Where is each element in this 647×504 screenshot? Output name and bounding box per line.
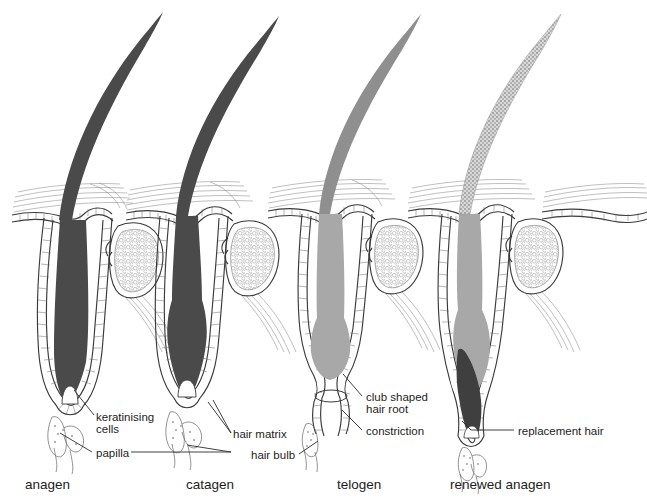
label-keratinising-cells-line1: keratinising xyxy=(96,411,154,423)
label-replacement-hair: replacement hair xyxy=(518,425,604,437)
stage-label-anagen: anagen xyxy=(25,477,70,492)
label-club-shaped-hair-root-line1: club shaped xyxy=(366,391,428,403)
label-hair-bulb: hair bulb xyxy=(251,449,295,461)
hair-cycle-diagram: keratinising cells papilla hair matrix h… xyxy=(0,0,647,504)
stage-label-telogen: telogen xyxy=(337,477,381,492)
label-club-shaped-hair-root-line2: hair root xyxy=(366,403,409,415)
diagram-canvas: keratinising cells papilla hair matrix h… xyxy=(0,0,647,504)
label-papilla: papilla xyxy=(96,447,130,459)
label-keratinising-cells-line2: cells xyxy=(96,423,119,435)
label-hair-matrix: hair matrix xyxy=(233,428,287,440)
label-constriction: constriction xyxy=(366,425,424,437)
stage-label-renewed-anagen: renewed anagen xyxy=(450,477,551,492)
stage-label-catagen: catagen xyxy=(186,477,234,492)
